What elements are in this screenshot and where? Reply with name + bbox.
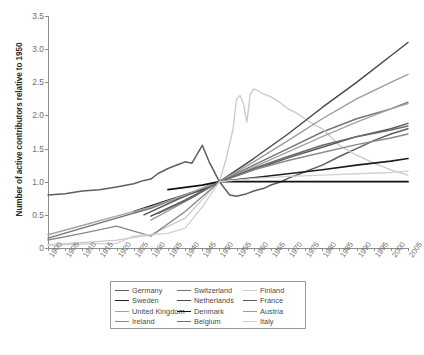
legend-swatch-icon	[177, 321, 191, 322]
y-tick-mark	[45, 49, 48, 50]
legend-swatch-icon	[243, 311, 257, 312]
legend-item[interactable]: Ireland	[115, 317, 177, 326]
legend-swatch-icon	[115, 311, 129, 312]
legend-item[interactable]: Italy	[243, 317, 299, 326]
legend-label: Denmark	[194, 307, 224, 316]
legend-item[interactable]: Switzerland	[177, 286, 243, 295]
legend-label: Belgium	[194, 317, 221, 326]
x-tick-label: 2005	[407, 240, 424, 259]
y-tick-label: 2.0	[32, 110, 44, 120]
series-lines	[48, 16, 408, 248]
legend-item[interactable]: Netherlands	[177, 296, 243, 305]
legend-item[interactable]: United Kingdom	[115, 307, 177, 316]
legend-swatch-icon	[177, 300, 191, 301]
legend-label: Italy	[260, 317, 274, 326]
legend-item[interactable]: Belgium	[177, 317, 243, 326]
series-line	[48, 104, 408, 235]
y-tick-mark	[45, 115, 48, 116]
y-tick-label: 2.5	[32, 77, 44, 87]
series-line	[158, 126, 408, 214]
y-tick-mark	[45, 215, 48, 216]
legend-swatch-icon	[243, 321, 257, 322]
legend-label: Sweden	[132, 296, 159, 305]
y-tick-mark	[45, 149, 48, 150]
legend-swatch-icon	[115, 290, 129, 291]
legend-label: Switzerland	[194, 286, 232, 295]
y-tick-mark	[45, 16, 48, 17]
series-line	[48, 129, 408, 197]
legend-swatch-icon	[115, 300, 129, 301]
y-tick-label: 0	[39, 243, 44, 253]
legend-item[interactable]: France	[243, 296, 299, 305]
legend-label: Ireland	[132, 317, 155, 326]
legend-label: Finland	[260, 286, 284, 295]
legend-swatch-icon	[243, 290, 257, 291]
chart-legend: GermanySwitzerlandFinlandSwedenNetherlan…	[110, 281, 306, 329]
series-line	[151, 43, 408, 217]
legend-swatch-icon	[177, 290, 191, 291]
legend-swatch-icon	[177, 311, 191, 312]
legend-label: France	[260, 296, 283, 305]
y-tick-label: 1.0	[32, 177, 44, 187]
legend-item[interactable]: Austria	[243, 307, 299, 316]
y-tick-label: 3.0	[32, 44, 44, 54]
legend-swatch-icon	[115, 321, 129, 322]
legend-label: Netherlands	[194, 296, 234, 305]
plot-area: 00.51.01.52.02.53.03.5 19001905191019151…	[48, 16, 408, 248]
legend-item[interactable]: Denmark	[177, 307, 243, 316]
y-tick-mark	[45, 82, 48, 83]
y-tick-label: 3.5	[32, 11, 44, 21]
legend-swatch-icon	[243, 300, 257, 301]
y-tick-label: 0.5	[32, 210, 44, 220]
legend-item[interactable]: Sweden	[115, 296, 177, 305]
series-line	[48, 89, 408, 245]
legend-grid: GermanySwitzerlandFinlandSwedenNetherlan…	[115, 285, 301, 327]
y-tick-mark	[45, 182, 48, 183]
y-axis-title: Number of active contributors relative t…	[15, 15, 24, 245]
legend-item[interactable]: Germany	[115, 286, 177, 295]
legend-item[interactable]: Finland	[243, 286, 299, 295]
legend-label: Germany	[132, 286, 162, 295]
legend-label: Austria	[260, 307, 283, 316]
y-tick-label: 1.5	[32, 144, 44, 154]
